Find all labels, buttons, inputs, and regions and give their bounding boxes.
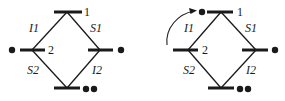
edge-label-top-left: I1 [183, 21, 194, 35]
vertex-label-left: 2 [48, 43, 54, 57]
edge-label-bottom-left: S2 [183, 63, 195, 77]
dot-right [272, 47, 278, 53]
dot-right [118, 47, 124, 53]
diagram-left: 1 2 I1 S1 S2 I2 [9, 5, 124, 92]
dot-bottom-1 [83, 86, 89, 92]
dot-left [9, 47, 15, 53]
edge-label-top-right: S1 [245, 21, 257, 35]
vertex-label-left: 2 [202, 43, 208, 57]
dot-top [199, 9, 205, 15]
dot-bottom-2 [91, 86, 97, 92]
vertex-label-top: 1 [237, 5, 243, 19]
edge-label-bottom-left: S2 [27, 63, 39, 77]
dot-bottom-2 [245, 86, 251, 92]
diagram-right: 1 2 I1 S1 S2 I2 [167, 5, 278, 92]
edge-label-bottom-right: I2 [245, 63, 256, 77]
energy-level-diagrams: 1 2 I1 S1 S2 I2 1 2 I1 S1 S2 I2 [0, 0, 285, 101]
edge-label-bottom-right: I2 [91, 63, 102, 77]
vertex-label-top: 1 [84, 5, 90, 19]
arrowhead-icon [189, 8, 197, 14]
edge-label-top-left: I1 [28, 21, 39, 35]
dot-bottom-1 [237, 86, 243, 92]
edge-label-top-right: S1 [90, 21, 102, 35]
